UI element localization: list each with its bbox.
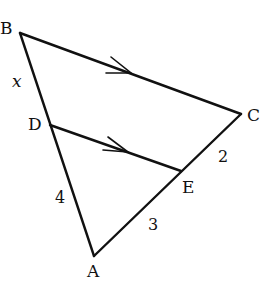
vertex-label-c: C xyxy=(247,105,260,125)
segment-label-ae: 3 xyxy=(148,215,158,234)
segment-label-ec: 2 xyxy=(218,147,228,166)
segment-ca xyxy=(94,114,241,256)
vertex-label-e: E xyxy=(182,177,194,197)
segment-label-da: 4 xyxy=(55,188,65,207)
segment-de xyxy=(50,125,181,171)
segment-label-bd: x xyxy=(12,71,22,91)
vertex-label-a: A xyxy=(86,261,100,281)
vertex-label-b: B xyxy=(0,18,13,38)
segment-ab xyxy=(20,33,94,256)
triangle-diagram: B D C E A x 4 3 2 xyxy=(0,0,265,285)
vertex-label-d: D xyxy=(28,114,42,134)
